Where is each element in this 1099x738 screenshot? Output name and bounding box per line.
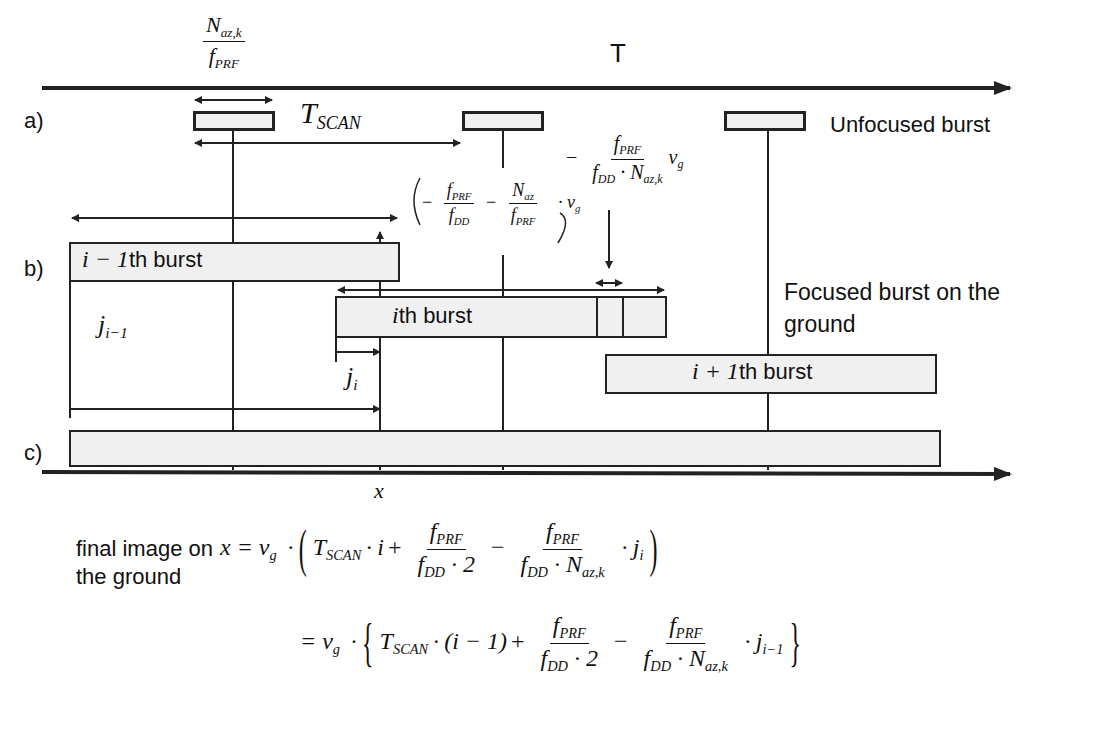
final-image-bar bbox=[69, 430, 941, 467]
j-curr-label: ji bbox=[346, 362, 358, 394]
equation-line-1: x = vg ·( TSCAN·i+ fPRFfDD · 2 − fPRFfDD… bbox=[220, 518, 657, 580]
burst-length-fraction: Naz,k fPRF bbox=[200, 12, 248, 71]
burst-i-segment-1 bbox=[596, 296, 624, 338]
shift-formula: − fPRF fDD − Naz fPRF · vg bbox=[418, 180, 580, 227]
ground-axis-label: x bbox=[374, 478, 384, 504]
equation-line-2: = vg ·{ TSCAN·(i − 1)+ fPRFfDD · 2 − fPR… bbox=[300, 612, 801, 674]
burst-i-plus-1-label: i + 1th burst bbox=[692, 358, 812, 385]
burst-timing-diagram: a) b) c) T x Naz,k fPRF TSCAN Unfocused … bbox=[0, 0, 1099, 738]
unfocused-burst-1 bbox=[193, 111, 275, 131]
burst-i-minus-1-label: i − 1th burst bbox=[82, 246, 202, 273]
step-formula: − fPRF fDD · Naz,k vg bbox=[562, 132, 683, 187]
panel-label-c: c) bbox=[24, 440, 42, 466]
t-scan-label: TSCAN bbox=[300, 96, 361, 134]
unfocused-burst-3 bbox=[724, 111, 806, 131]
time-axis-label: T bbox=[610, 38, 626, 69]
j-prev-label: ji−1 bbox=[98, 310, 128, 342]
panel-label-a: a) bbox=[24, 108, 44, 134]
unfocused-burst-2 bbox=[462, 111, 544, 131]
ground-axis bbox=[42, 472, 1010, 474]
unfocused-burst-label: Unfocused burst bbox=[830, 112, 990, 138]
burst-i-label: ith burst bbox=[392, 302, 472, 329]
final-image-caption: final image on the ground bbox=[76, 535, 213, 591]
panel-label-b: b) bbox=[24, 256, 44, 282]
focused-burst-label: Focused burst on the ground bbox=[784, 276, 1000, 340]
